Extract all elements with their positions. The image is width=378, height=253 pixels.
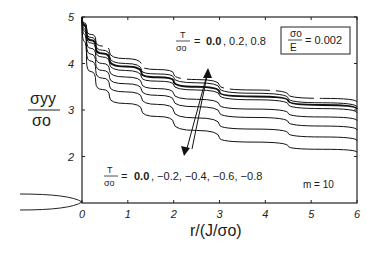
y-tick-label: 4 [68, 58, 74, 70]
lower-frac-den: σo [104, 178, 115, 188]
x-tick-label: 0 [79, 208, 86, 220]
box-numerator: σo [290, 28, 302, 39]
x-tick-label: 5 [308, 208, 315, 220]
ylabel-numerator: σyy [30, 90, 56, 107]
lower-bold-value: 0.0 [134, 170, 149, 182]
x-tick-label: 6 [354, 208, 361, 220]
x-tick-label: 3 [217, 208, 224, 220]
crack-tip-sketch [20, 194, 82, 210]
box-denominator: E [290, 42, 297, 53]
upper-frac-num: T [180, 30, 186, 40]
lower-frac-num: T [107, 165, 113, 175]
x-tick-label: 2 [170, 208, 177, 220]
upper-eq: = [194, 35, 200, 47]
arrow-down [181, 71, 208, 156]
upper-bold-value: 0.0 [206, 35, 221, 47]
ylabel-denominator: σo [32, 112, 51, 129]
xlabel: r/(J/σo) [190, 222, 242, 239]
lower-eq: = [121, 170, 127, 182]
y-tick-label: 5 [68, 11, 75, 23]
upper-values: , 0.2, 0.8 [223, 35, 266, 47]
y-tick-label: 2 [67, 151, 74, 163]
box-value: = 0.002 [305, 34, 342, 46]
m-label: m = 10 [303, 179, 334, 190]
x-tick-label: 4 [262, 208, 268, 220]
y-tick-label: 3 [68, 104, 75, 116]
x-tick-label: 1 [125, 208, 131, 220]
chart: 01234562345 σyy σo r/(J/σo) σo E = 0.002… [0, 0, 378, 253]
lower-values: , −0.2, −0.4, −0.6, −0.8 [151, 170, 262, 182]
upper-frac-den: σo [176, 43, 187, 53]
